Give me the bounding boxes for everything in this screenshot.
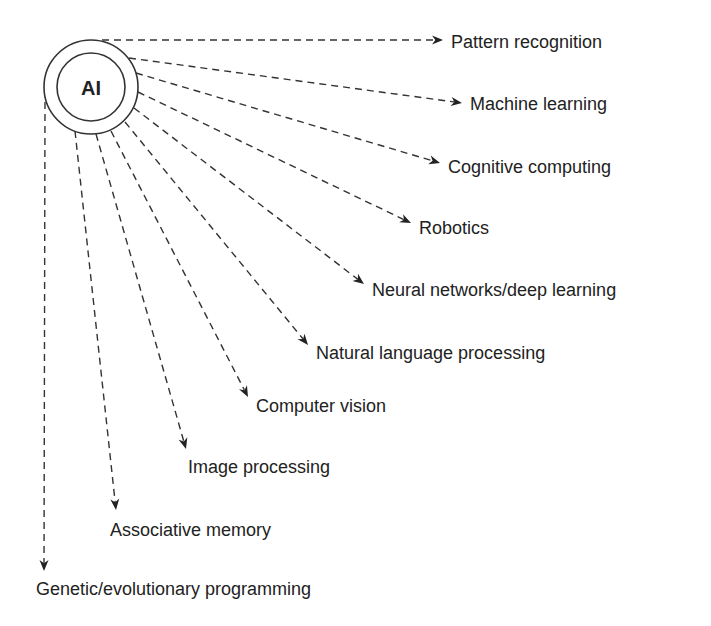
dashed-connector-associative-memory [75,131,115,502]
dashed-connector-genetic-evolutionary-programming [44,102,45,563]
branch-label-associative-memory: Associative memory [110,520,271,540]
dashed-connector-computer-vision [111,131,244,390]
dashed-connector-robotics [138,92,404,220]
dashed-connector-cognitive-computing [136,73,432,161]
branch-label-machine-learning: Machine learning [470,94,607,114]
branch-label-cognitive-computing: Cognitive computing [448,157,611,177]
arrowhead-icon [432,36,443,45]
arrowhead-icon [110,499,119,510]
dashed-connector-neural-networks-deep-learning [134,108,358,279]
ai-label: AI [81,77,101,99]
branch-label-genetic-evolutionary-programming: Genetic/evolutionary programming [36,579,311,599]
dashed-connector-machine-learning [129,58,454,102]
ai-subfields-diagram: AI Pattern recognitionMachine learningCo… [0,0,711,626]
branch-label-natural-language-processing: Natural language processing [316,343,545,363]
branch-label-computer-vision: Computer vision [256,396,386,416]
branch-label-robotics: Robotics [419,218,489,238]
branch-label-neural-networks-deep-learning: Neural networks/deep learning [372,280,616,300]
dashed-connector-image-processing [96,134,184,441]
branch-label-pattern-recognition: Pattern recognition [451,32,602,52]
arrowhead-icon [298,334,308,345]
branch-label-image-processing: Image processing [188,457,330,477]
dashed-connector-natural-language-processing [125,122,303,339]
ai-center-node: AI [44,40,138,134]
arrowhead-icon [353,274,364,284]
